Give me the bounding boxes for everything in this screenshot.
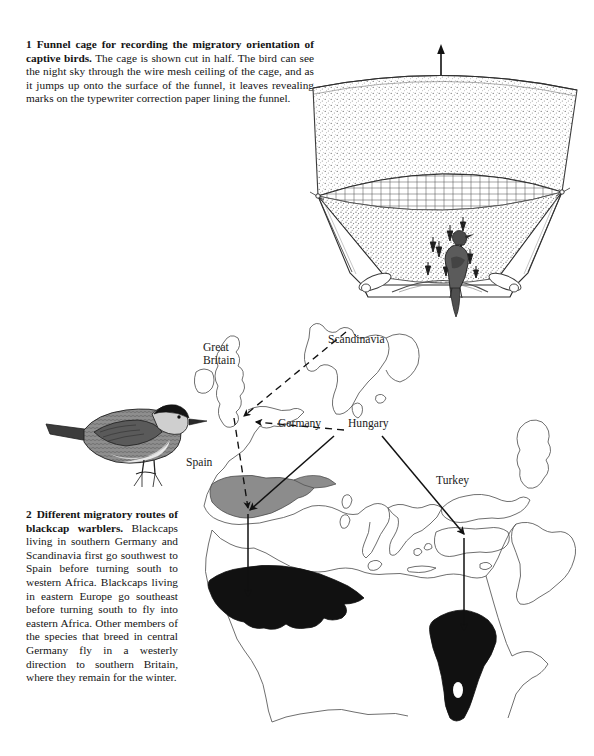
map-label-germany: Germany <box>278 418 321 431</box>
west-africa-wintering-area <box>208 565 364 629</box>
map-label-great-britain: Great Britain <box>203 342 235 367</box>
map-label-hungary: Hungary <box>348 418 389 431</box>
south-direction-arrow <box>437 44 445 80</box>
figure-2-caption: 2Different migratory routes of blackcap … <box>26 508 178 685</box>
figure-1-number: 1 <box>26 38 32 50</box>
east-africa-wintering-area <box>430 610 497 721</box>
bird-eye <box>177 415 180 418</box>
figure-1-caption: 1Funnel cage for recording the migratory… <box>26 38 314 106</box>
figure-2-body: Blackcaps living in southern Germany and… <box>26 522 178 684</box>
textbook-page: 1Funnel cage for recording the migratory… <box>0 0 594 756</box>
bird-legs <box>134 460 162 487</box>
map-label-scandinavia: Scandinavia <box>328 334 385 347</box>
east-africa-lake <box>453 682 463 698</box>
funnel-cage-figure: S <box>300 26 590 301</box>
cage-base-plate <box>362 285 516 297</box>
map-label-turkey: Turkey <box>436 475 469 488</box>
migration-map-figure: Great Britain Scandinavia Germany Hungar… <box>186 318 594 728</box>
figure-2-number: 2 <box>26 508 32 520</box>
migration-map <box>186 318 594 728</box>
map-coastlines <box>194 323 575 722</box>
funnel-cage-illustration <box>300 26 590 301</box>
map-label-spain: Spain <box>186 457 212 470</box>
